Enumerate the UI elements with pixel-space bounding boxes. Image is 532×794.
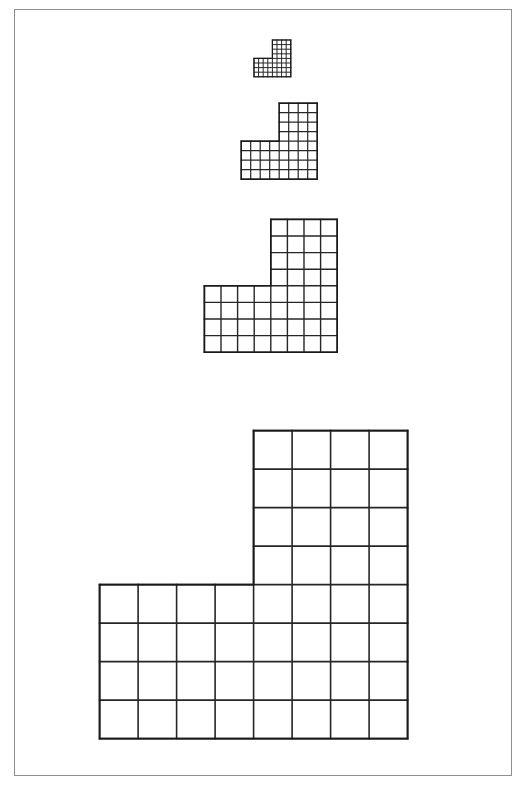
grid-cell — [292, 508, 330, 546]
grid-cell — [254, 431, 292, 469]
grid-cell — [268, 63, 273, 68]
grid-cell — [221, 302, 238, 319]
grid-cell — [272, 68, 277, 73]
grid-cell — [204, 285, 221, 302]
grid-cell — [287, 219, 304, 236]
grid-cell — [289, 160, 298, 169]
grid-cell — [279, 103, 288, 112]
grid-cell — [279, 151, 288, 160]
grid-cell — [282, 68, 287, 73]
grid-cell — [216, 623, 254, 661]
grid-cell — [369, 623, 407, 661]
grid-cell — [320, 236, 337, 253]
grid-cell — [204, 302, 221, 319]
grid-cell — [308, 170, 317, 179]
grid-cell — [304, 219, 321, 236]
grid-cell — [216, 700, 254, 738]
grid-cell — [282, 45, 287, 50]
grid-cell — [308, 113, 317, 122]
grid-cell — [286, 72, 291, 77]
grid-cell — [369, 470, 407, 508]
grid-cell — [277, 63, 282, 68]
grid-cell — [263, 63, 268, 68]
grid-cell — [289, 132, 298, 141]
grid-cell — [177, 585, 215, 623]
grid-cell — [254, 58, 259, 63]
l-shape-grid-svg — [97, 428, 410, 741]
grid-cell — [331, 547, 369, 585]
grid-cell — [263, 72, 268, 77]
grid-cell — [298, 113, 307, 122]
grid-cell — [331, 662, 369, 700]
grid-cell — [277, 72, 282, 77]
l-shape-grid-svg — [202, 217, 340, 355]
grid-cell — [241, 141, 250, 150]
grid-cell — [298, 151, 307, 160]
grid-cell — [277, 45, 282, 50]
grid-cell — [286, 68, 291, 73]
grid-cell — [308, 160, 317, 169]
grid-cell — [237, 335, 254, 352]
grid-cell — [272, 58, 277, 63]
grid-cell — [221, 335, 238, 352]
grid-cell — [331, 470, 369, 508]
grid-cell — [292, 585, 330, 623]
grid-cell — [272, 72, 277, 77]
grid-cell — [254, 63, 259, 68]
figure-page — [0, 0, 532, 794]
grid-cell — [292, 547, 330, 585]
grid-cell — [100, 662, 138, 700]
grid-cell — [292, 431, 330, 469]
grid-cell — [331, 508, 369, 546]
grid-cell — [292, 662, 330, 700]
grid-cell — [304, 335, 321, 352]
grid-cell — [304, 319, 321, 336]
grid-cell — [139, 662, 177, 700]
grid-cell — [254, 335, 271, 352]
grid-cell — [259, 68, 264, 73]
grid-cell — [254, 662, 292, 700]
grid-cell — [320, 285, 337, 302]
grid-cell — [331, 431, 369, 469]
grid-cell — [304, 269, 321, 286]
grid-cell — [277, 49, 282, 54]
l-shape-figure-4 — [100, 431, 408, 739]
grid-cell — [289, 141, 298, 150]
grid-cell — [331, 585, 369, 623]
grid-cell — [177, 662, 215, 700]
grid-cell — [287, 335, 304, 352]
grid-cell — [139, 623, 177, 661]
grid-cell — [369, 585, 407, 623]
l-shape-grid-svg — [252, 38, 293, 79]
grid-cell — [241, 151, 250, 160]
grid-cell — [254, 72, 259, 77]
grid-cell — [289, 170, 298, 179]
grid-cell — [282, 54, 287, 59]
grid-cell — [139, 700, 177, 738]
grid-cell — [308, 103, 317, 112]
grid-cell — [282, 40, 287, 45]
grid-cell — [279, 170, 288, 179]
grid-cell — [286, 40, 291, 45]
grid-cell — [287, 269, 304, 286]
grid-cell — [237, 285, 254, 302]
grid-cell — [100, 585, 138, 623]
grid-cell — [177, 623, 215, 661]
grid-cell — [100, 623, 138, 661]
grid-cell — [241, 170, 250, 179]
grid-cell — [282, 72, 287, 77]
grid-cell — [320, 335, 337, 352]
grid-cell — [369, 508, 407, 546]
grid-cell — [204, 319, 221, 336]
grid-cell — [241, 160, 250, 169]
grid-cell — [298, 141, 307, 150]
grid-cell — [320, 252, 337, 269]
l-shape-grid-svg — [239, 101, 319, 181]
grid-cell — [254, 285, 271, 302]
grid-cell — [260, 141, 269, 150]
grid-cell — [304, 236, 321, 253]
grid-cell — [270, 285, 287, 302]
grid-cell — [298, 122, 307, 131]
grid-cell — [254, 68, 259, 73]
grid-cell — [287, 236, 304, 253]
